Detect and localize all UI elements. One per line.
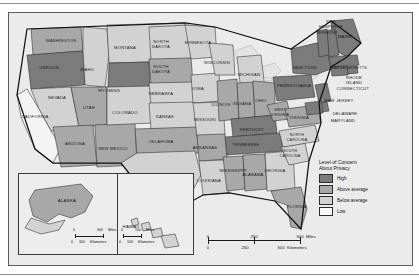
legend-title-line2: About Privacy (319, 165, 405, 171)
state-south-dakota (149, 58, 193, 85)
hawaii-scale-mark-1 (141, 234, 142, 238)
hawaii-miles-unit: Miles (146, 228, 154, 232)
alaska-scale-line (75, 236, 103, 237)
state-north-carolina (279, 125, 319, 147)
hawaii-km-tick-1: 100 (127, 240, 133, 244)
state-new-jersey (315, 83, 331, 103)
legend-label-low: Low (337, 209, 345, 214)
scale-km-tick-0: 0 (207, 245, 209, 250)
legend-label-below-average: Below average (337, 198, 367, 203)
state-arkansas (197, 134, 227, 161)
hawaii-big-island (161, 234, 179, 248)
state-arizona (53, 125, 97, 167)
state-idaho (83, 27, 109, 87)
map-page: WASHINGTONOREGONIDAHOMONTANAWYOMINGNEVAD… (0, 0, 419, 278)
state-illinois (217, 79, 239, 121)
state-connecticut (331, 66, 348, 76)
legend: Level of Concern About Privacy High Abov… (319, 159, 405, 218)
scale-miles-unit: Miles (306, 234, 316, 239)
alaska-miles-tick-0: 0 (73, 228, 75, 232)
state-washington (31, 27, 83, 55)
inset-box: ALASKA HAWAII 0 300 Miles 0 300 Kilomete… (18, 173, 194, 255)
hawaii-miles-tick-0: 0 (121, 228, 123, 232)
legend-swatch-high (319, 174, 333, 183)
scale-miles-mark-1 (254, 237, 255, 244)
state-pennsylvania (273, 75, 315, 101)
hawaii-km-tick-0: 0 (119, 240, 121, 244)
scale-bar-kilometers: 0 250 500 Kilometers (205, 245, 333, 253)
alaska-km-tick-1: 300 (79, 240, 85, 244)
state-vermont (317, 29, 329, 57)
scale-km-tick-1: 250 (242, 245, 249, 250)
alaska-scale-mark-0 (75, 234, 76, 238)
state-tennessee (225, 133, 283, 155)
legend-item-above-average: Above average (319, 185, 405, 194)
alaska-miles-tick-1: 300 (97, 228, 103, 232)
scale-km-unit: Kilometers (287, 245, 307, 250)
alaska-miles-unit: Miles (108, 228, 116, 232)
legend-item-high: High (319, 174, 405, 183)
state-iowa (191, 73, 221, 103)
top-rule (0, 3, 419, 4)
state-kansas (149, 102, 197, 129)
legend-swatch-above-average (319, 185, 333, 194)
inset-label-alaska: ALASKA (58, 198, 77, 203)
state-rhode-island (347, 66, 358, 74)
state-colorado (107, 86, 153, 125)
alaska-km-tick-0: 0 (71, 240, 73, 244)
scale-miles-mark-0 (208, 237, 209, 244)
legend-title: Level of Concern About Privacy (319, 159, 405, 171)
alaska-km-unit: Kilometers (90, 240, 107, 244)
scale-bar-miles: 0 250 500 Miles (205, 235, 333, 245)
alaska-scale-mark-1 (103, 234, 104, 238)
bottom-rule (0, 274, 419, 275)
state-north-dakota (149, 25, 191, 61)
hawaii-scale-line (123, 236, 141, 237)
state-oregon (27, 51, 85, 89)
state-nebraska (149, 82, 195, 105)
hawaii-miles-tick-1: 100 (135, 228, 141, 232)
scale-km-tick-2: 500 (278, 245, 285, 250)
scale-miles-mark-2 (300, 237, 301, 244)
legend-item-low: Low (319, 207, 405, 216)
state-alaska (29, 184, 93, 222)
state-alabama (243, 154, 267, 191)
legend-swatch-below-average (319, 196, 333, 205)
legend-label-above-average: Above average (337, 187, 368, 192)
hawaii-km-unit: Kilometers (138, 240, 155, 244)
legend-swatch-low (319, 207, 333, 216)
hawaii-scale-mark-0 (123, 234, 124, 238)
state-mississippi (223, 156, 245, 191)
legend-label-high: High (337, 176, 346, 181)
legend-item-below-average: Below average (319, 196, 405, 205)
state-indiana (237, 82, 255, 119)
state-wisconsin (209, 43, 235, 75)
state-oklahoma (135, 127, 199, 155)
scale-bar: 0 250 500 Miles 0 250 500 Kilometers (205, 235, 333, 253)
map-frame: WASHINGTONOREGONIDAHOMONTANAWYOMINGNEVAD… (8, 12, 413, 266)
